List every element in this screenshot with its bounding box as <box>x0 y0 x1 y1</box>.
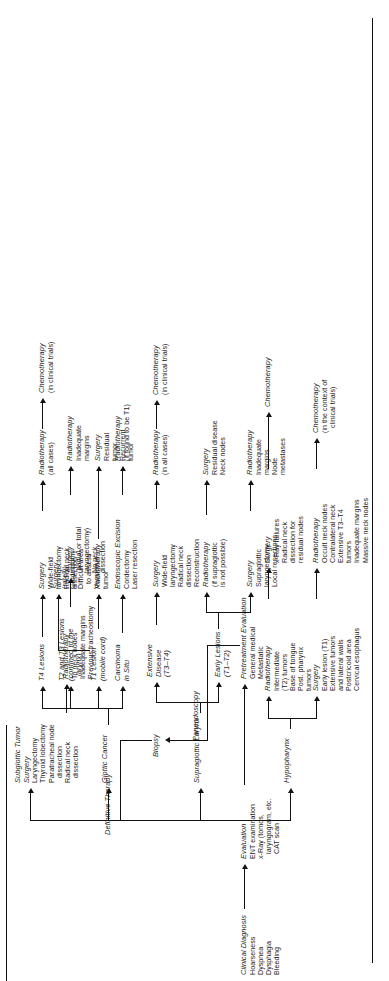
subglottic-surg-to-radio <box>66 689 67 713</box>
node-supra-ext-radiotherapy: Radiotherapy (in all cases) <box>152 430 169 475</box>
arrow-hypopharynx <box>288 788 294 793</box>
supra-early-radio-post-title: Radiotherapy <box>246 430 255 475</box>
hypo-radiotherapy-2-item: Massive neck nodes <box>362 498 370 563</box>
arrow-glottic-t1 <box>96 686 102 691</box>
cis-excision-title: Endoscopic Excision <box>114 519 123 589</box>
connector-biopsy-to-definitive <box>120 740 121 821</box>
supra-ext-to-radio <box>156 485 157 509</box>
glottic-split <box>42 708 122 709</box>
node-supra-early-surgery: Surgery Supraglottic laryngectomy Local … <box>246 535 279 587</box>
supra-early-radiotherapy-item: is not possible) <box>219 539 227 587</box>
node-supraglottic-larynx: Supraglottic Larynx <box>193 718 202 783</box>
hypo-surgery-item: Extensive tumors <box>329 628 337 691</box>
node-clinical-diagnosis: Clinical Diagnosis Hoarseness Dyspnea Dy… <box>240 915 281 975</box>
arrow-t2t3-radio <box>68 466 74 471</box>
node-t4-chemotherapy: Chemotherapy (in clinical trials) <box>38 342 55 393</box>
supra-split <box>156 702 218 703</box>
arrow-subglottic <box>28 788 34 793</box>
glottic-cancer-title: Glottic Cancer <box>101 735 110 783</box>
glottic-to-t1 <box>98 691 99 709</box>
arrow-t4-radio <box>40 480 46 485</box>
node-supra-ext-surgery: Surgery Wide-field laryngectomy Radical … <box>152 539 202 587</box>
hypo-radiotherapy-2-item: Occult neck nodes <box>321 498 329 563</box>
arrow-supra-early <box>216 682 222 687</box>
hypo-radiotherapy-2-title: Radiotherapy <box>312 498 321 563</box>
arrow-cis-excision <box>120 594 126 599</box>
hypo-surgery-item: and lateral walls <box>337 628 345 691</box>
t4-surgery-item: laryngectomy <box>55 546 63 589</box>
node-supra-early-radiotherapy: Radiotherapy (if supraglottic is not pos… <box>202 539 227 587</box>
t2t3-surgery-item: laryngectomy) <box>83 527 91 573</box>
t1-to-radio <box>98 599 99 629</box>
arrow-t4-chemo <box>40 398 46 403</box>
supra-early-radio-post-item: Inadequate <box>255 430 263 475</box>
subglottic-radiotherapy-item: Inadequate margins <box>79 606 87 679</box>
supra-early-lesions-sub: (T1–T2) <box>223 631 232 677</box>
t4-radiotherapy-item: (all cases) <box>47 430 55 475</box>
arrow-glottic-cancer <box>106 788 112 793</box>
arrow-supra-extensive <box>154 682 160 687</box>
subglottic-surgery-item: Paratracheal node <box>48 724 56 783</box>
subglottic-surgery-item: dissection <box>72 724 80 783</box>
node-hypo-chemotherapy-2: Chemotherapy <box>264 357 273 407</box>
node-hypo-radiotherapy-2: Radiotherapy Occult neck nodes Contralat… <box>312 498 370 563</box>
t4-to-radio <box>42 485 43 511</box>
node-t4-radiotherapy: Radiotherapy (all cases) <box>38 430 55 475</box>
arrow-hypo-chemo2 <box>266 412 272 417</box>
node-biopsy: Biopsy <box>152 734 161 757</box>
subglottic-radiotherapy-item: To neck nodes <box>71 606 79 679</box>
t1-surgery-item: tumor <box>127 429 135 461</box>
clinical-diagnosis-title: Clinical Diagnosis <box>240 915 249 975</box>
evaluation-item: ENT examination <box>249 798 257 859</box>
t4-surgery-item: dissection <box>71 546 79 589</box>
supra-ext-surgery-item: dissection <box>185 539 193 587</box>
evaluation-item: laryngogram, etc. <box>265 798 273 859</box>
t4-chemotherapy-item: (in clinical trials) <box>47 342 55 393</box>
supra-early-surgery-post-item: Neck nodes <box>219 420 227 475</box>
arrow-hypo-surgery <box>314 696 320 701</box>
glottic-to-t4 <box>42 691 43 709</box>
node-hypo-chemotherapy-1: Chemotherapy (in the context of clinical… <box>312 380 337 433</box>
t1-lesion-sub: (mobile cord) <box>99 637 108 681</box>
glottic-to-cis <box>122 691 123 709</box>
supra-early-radiotherapy-title: Radiotherapy <box>202 539 211 587</box>
hypo-surgery-2-item: dissection for <box>289 516 297 563</box>
supra-split-feed <box>200 702 201 713</box>
subglottic-feed <box>30 793 31 821</box>
hypo-chemotherapy-1-title: Chemotherapy <box>312 380 321 433</box>
arrow-supra-early-radio-next <box>204 480 210 485</box>
hypo-surgery-2-item: Radical neck <box>281 516 289 563</box>
node-supra-early-radiotherapy-post: Radiotherapy Inadequate margins Node met… <box>246 430 287 475</box>
t4-surgery-item: Wide-field <box>47 546 55 589</box>
node-t1-surgery: Surgery Residual tumor Recurrent tumor <box>94 429 135 461</box>
node-hypo-surgery: Surgery Early lesion (T1) Extensive tumo… <box>312 628 362 691</box>
supra-early-radio-next <box>206 485 207 515</box>
subglottic-surgery-item: Thyroid lobectomy <box>39 724 47 783</box>
hypo-surgery-2-item: residual nodes <box>297 516 305 563</box>
hypo-surgery-next <box>316 573 317 599</box>
t4-lesions-title: T4 Lesions <box>38 644 47 681</box>
hypo-riser <box>120 820 290 821</box>
arrow-hypo-radiotherapy <box>266 696 272 701</box>
arrow-subglottic-radio <box>64 684 70 689</box>
supra-ext-radiotherapy-item: (in all cases) <box>161 430 169 475</box>
subglottic-surgery-item: Radical neck <box>64 724 72 783</box>
hypo-to-surgery <box>316 701 317 719</box>
evaluation-item: x-Ray (tomos, <box>257 798 265 859</box>
t4-to-surgery <box>42 599 43 637</box>
supra-early-radio-post-item: metastases <box>279 430 287 475</box>
arrow-dx-eval <box>242 864 248 869</box>
hypo-split <box>268 718 316 719</box>
supra-early-surgery-item: laryngectomy <box>263 535 271 587</box>
node-t4-surgery: Surgery Wide-field laryngectomy Radical … <box>38 546 79 589</box>
connector-biopsy-down <box>120 740 152 741</box>
supra-early-radio-post-item: margins <box>263 430 271 475</box>
node-pretreatment-evaluation: Pretreatment Evaluation General medical … <box>240 597 265 679</box>
cis-excision-item: Cordectomy <box>123 519 131 589</box>
supra-early-to-surgery <box>250 597 251 613</box>
hypo-chemotherapy-1-item: clinical trials) <box>329 380 337 433</box>
t1-surgery-item: tumor <box>111 429 119 461</box>
node-supra-ext-chemotherapy: Chemotherapy (in clinical trials) <box>152 344 169 395</box>
cis-excision-item: Laser resection <box>131 519 139 589</box>
supra-ext-radiotherapy-title: Radiotherapy <box>152 430 161 475</box>
